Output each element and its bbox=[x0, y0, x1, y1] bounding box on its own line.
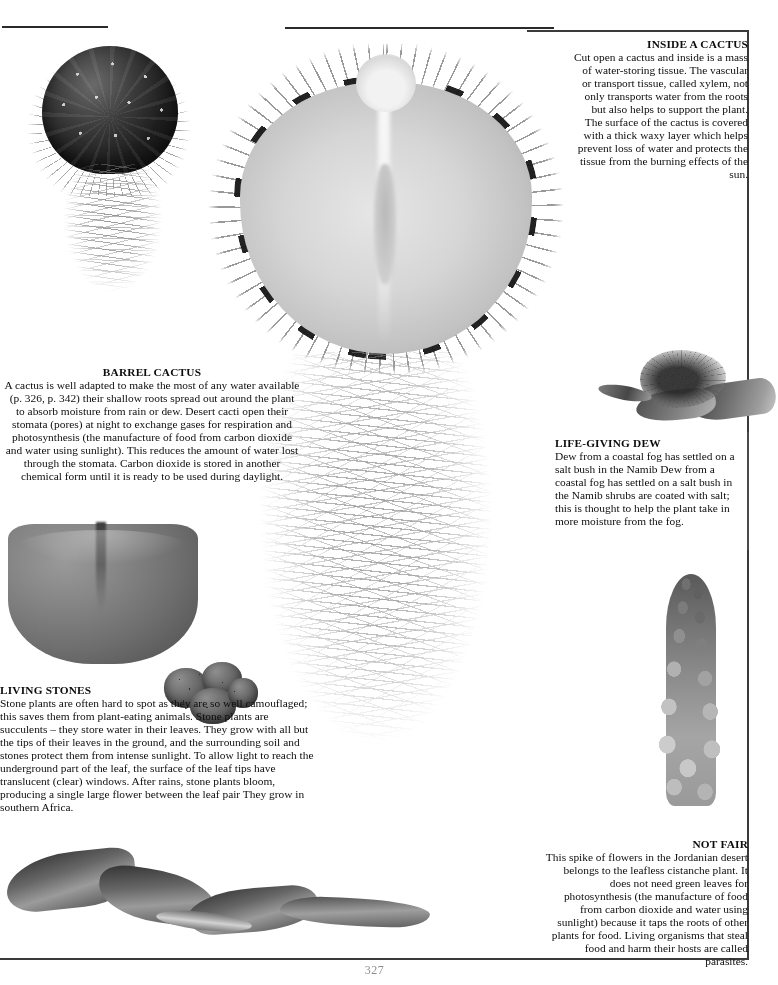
cactus-shallow-roots bbox=[58, 164, 168, 314]
hand-holding-dew-salt-bush-figure bbox=[592, 342, 767, 442]
caption-living-stones: LIVING STONES Stone plants are often har… bbox=[0, 684, 314, 814]
withered-twisted-leaves-figure bbox=[6, 846, 426, 954]
caption-body: Dew from a coastal fog has settled on a … bbox=[555, 450, 745, 528]
cactus-core bbox=[374, 164, 396, 284]
top-rule-middle-segment bbox=[285, 27, 554, 29]
caption-body: Stone plants are often hard to spot as t… bbox=[0, 697, 314, 814]
withered-leaf bbox=[280, 895, 431, 928]
small-barrel-cactus-figure bbox=[24, 36, 194, 316]
caption-body: A cactus is well adapted to make the mos… bbox=[4, 379, 300, 483]
page-number: 327 bbox=[0, 963, 749, 978]
living-stone-leaf-pair-figure bbox=[8, 524, 198, 664]
caption-body: This spike of flowers in the Jordanian d… bbox=[540, 851, 748, 968]
caption-heading: BARREL CACTUS bbox=[4, 366, 300, 379]
caption-barrel-cactus: BARREL CACTUS A cactus is well adapted t… bbox=[4, 366, 300, 483]
caption-body: Cut open a cactus and inside is a mass o… bbox=[574, 51, 748, 181]
caption-not-fair: NOT FAIR This spike of flowers in the Jo… bbox=[540, 838, 748, 968]
caption-heading: NOT FAIR bbox=[540, 838, 748, 851]
top-rule-left-segment bbox=[2, 26, 108, 28]
stone-plant-translucent-window bbox=[16, 530, 188, 564]
caption-heading: LIVING STONES bbox=[0, 684, 314, 697]
caption-heading: LIFE-GIVING DEW bbox=[555, 437, 745, 450]
cactus-cross-section-figure bbox=[196, 44, 576, 374]
cactus-areoles bbox=[42, 46, 178, 174]
caption-life-giving-dew: LIFE-GIVING DEW Dew from a coastal fog h… bbox=[555, 437, 745, 528]
caption-inside-a-cactus: INSIDE A CACTUS Cut open a cactus and in… bbox=[574, 38, 748, 181]
cistanche-flower-spike-figure bbox=[642, 574, 746, 806]
cistanche-flower-buds bbox=[650, 570, 736, 806]
caption-heading: INSIDE A CACTUS bbox=[574, 38, 748, 51]
right-margin-rule-secondary bbox=[747, 432, 749, 550]
cactus-crown bbox=[356, 54, 416, 112]
top-rule-right-segment bbox=[527, 30, 749, 32]
